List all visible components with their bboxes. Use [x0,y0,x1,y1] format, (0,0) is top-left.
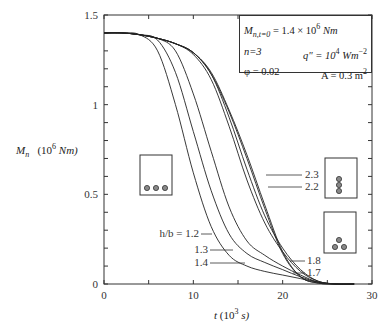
curve-label: 1.8 [307,254,321,266]
parameter-box: Mn,t=0 = 1.4 × 106 Nm n=3 q" = 104 Wm−2 … [239,15,372,73]
x-axis-label: t (103 s) [214,307,249,321]
rebar-circle [336,188,341,193]
y-tick-label: 0 [93,278,99,290]
rebar-circle [336,176,341,181]
y-label-sub: n [25,150,29,159]
rebar-circle [162,185,167,190]
rebar-circle [332,244,337,249]
curve-label: 1.4 [194,256,208,268]
y-label-symbol: M [16,144,25,156]
x-label-unit-end: s) [238,309,249,321]
y-tick-label: 0.5 [84,188,98,200]
x-tick-label: 30 [367,289,379,301]
param-area: A = 0.3 m2 [321,63,367,84]
rebar-circle [336,182,341,187]
param-row-phi-a: φ = 0.02 A = 0.3 m2 [244,63,367,84]
y-label-unit: (10 [37,144,52,156]
param-moment-sub: n,t=0 [253,30,271,39]
param-row-n-q: n=3 q" = 104 Wm−2 [244,43,367,64]
rebar-circle [336,237,341,242]
param-area-exp: 2 [363,67,367,76]
curve-label: 1.7 [307,266,321,278]
param-q-unit-exp: −2 [358,47,367,56]
x-label-symbol: t [214,309,217,321]
param-n: n=3 [244,43,262,64]
param-moment-symbol: M [244,25,253,36]
param-q-text: q" = 10 [303,49,336,60]
param-q-unit: Wm [340,49,359,60]
param-moment: Mn,t=0 = 1.4 × 106 Nm [244,18,338,43]
inset-section-triangle [324,212,356,253]
x-label-unit: (10 [220,309,235,321]
param-phi: φ = 0.02 [244,63,280,84]
curve-label: 2.3 [305,168,319,180]
param-row-moment: Mn,t=0 = 1.4 × 106 Nm [244,18,367,43]
param-moment-unit: Nm [320,25,337,36]
rebar-circle [341,244,346,249]
rebar-circle [144,185,149,190]
param-q: q" = 104 Wm−2 [303,43,367,64]
x-tick-label: 10 [188,289,200,301]
curve-label: 1.3 [194,243,208,255]
x-tick-label: 20 [277,289,289,301]
curve-label: h/b = 1.2 [159,227,199,239]
y-label-unit-end: Nm) [56,144,78,156]
x-tick-label: 0 [101,289,107,301]
rebar-circle [153,185,158,190]
curve-label: 2.2 [305,180,319,192]
y-axis-label: Mn (106 Nm) [16,142,78,159]
param-n-text: n=3 [244,46,262,57]
param-area-text: A = 0.3 m [321,70,363,81]
y-tick-label: 1.5 [84,9,98,21]
y-tick-label: 1 [93,99,99,111]
param-moment-value: = 1.4 × 10 [270,25,316,36]
